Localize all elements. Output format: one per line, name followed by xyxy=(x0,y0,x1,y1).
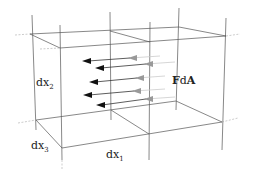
label-dx2: dx2 xyxy=(36,76,54,91)
labels: dx2 dx3 dx1 FdA xyxy=(31,74,196,163)
force-arrow xyxy=(89,75,165,85)
label-dx1: dx1 xyxy=(106,148,124,163)
volume-element-diagram: dx2 dx3 dx1 FdA xyxy=(0,0,253,173)
label-force: FdA xyxy=(172,74,196,87)
label-dx3: dx3 xyxy=(31,139,49,154)
force-arrows xyxy=(82,55,175,108)
force-arrow xyxy=(95,61,175,71)
